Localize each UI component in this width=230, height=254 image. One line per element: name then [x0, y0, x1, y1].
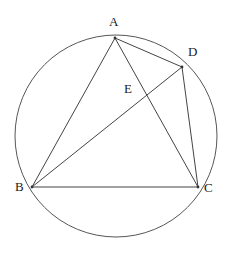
point-label-c: C [204, 181, 213, 194]
point-label-b: B [15, 180, 24, 193]
vertex-dot-a [114, 37, 117, 40]
vertex-dots-group [31, 37, 200, 189]
chord-segments-group [32, 38, 198, 187]
vertex-dot-c [197, 186, 200, 189]
segment-ac [115, 38, 198, 187]
circumcircle [15, 35, 217, 237]
point-label-e: E [124, 82, 132, 95]
vertex-dot-b [31, 186, 34, 189]
geometry-canvas [0, 0, 230, 254]
segment-ab [32, 38, 115, 187]
point-label-d: D [188, 45, 197, 58]
segment-dc [182, 67, 198, 187]
segment-bd [32, 67, 182, 187]
geometry-diagram: ADEBC [0, 0, 230, 254]
vertex-dot-d [181, 66, 184, 69]
point-label-a: A [109, 15, 118, 28]
